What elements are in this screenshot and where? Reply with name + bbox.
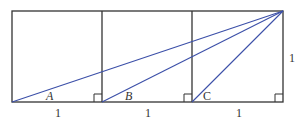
angle-label-c: C xyxy=(203,89,211,103)
bottom-length-label-1: 1 xyxy=(55,106,61,119)
bottom-length-label-2: 1 xyxy=(145,106,151,119)
three-squares-diagram: A B C 1 1 1 1 xyxy=(0,0,298,119)
right-angle-marker-2 xyxy=(184,94,192,102)
angle-label-b: B xyxy=(125,89,133,103)
right-angle-marker-1 xyxy=(94,94,102,102)
right-angle-marker-3 xyxy=(275,94,283,102)
angle-label-a: A xyxy=(45,89,54,103)
bottom-length-label-3: 1 xyxy=(236,106,242,119)
right-length-label: 1 xyxy=(289,51,295,65)
